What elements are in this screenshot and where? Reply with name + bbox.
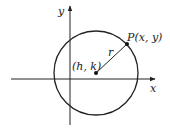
point-label: P(x, y) [126,31,162,44]
center-label: (h, k) [72,60,101,73]
radius-label: r [108,46,114,59]
circle-diagram: y x P(x, y) r (h, k) [0,0,170,134]
x-axis-label: x [150,82,157,95]
y-axis-label: y [57,5,65,18]
